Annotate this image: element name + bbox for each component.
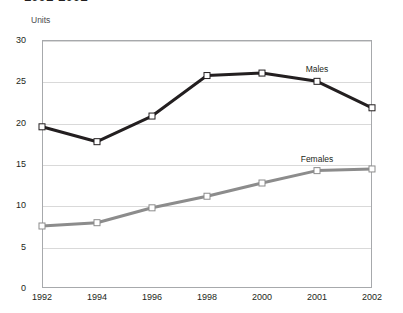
data-point-marker — [39, 124, 45, 130]
data-point-marker — [369, 166, 375, 172]
series-label-males: Males — [306, 64, 329, 74]
data-point-marker — [204, 193, 210, 199]
data-point-marker — [259, 70, 265, 76]
data-point-marker — [94, 220, 100, 226]
series-lines — [0, 0, 403, 313]
data-point-marker — [314, 78, 320, 84]
data-point-marker — [94, 139, 100, 145]
data-point-marker — [204, 73, 210, 79]
data-point-marker — [39, 223, 45, 229]
series-label-females: Females — [301, 154, 334, 164]
data-point-marker — [314, 168, 320, 174]
data-point-marker — [149, 205, 155, 211]
line-chart: 1992-2002 Units 051015202530 19921994199… — [0, 0, 403, 313]
data-point-marker — [259, 180, 265, 186]
data-point-marker — [149, 113, 155, 119]
series-line-males — [42, 73, 372, 142]
data-point-marker — [369, 105, 375, 111]
